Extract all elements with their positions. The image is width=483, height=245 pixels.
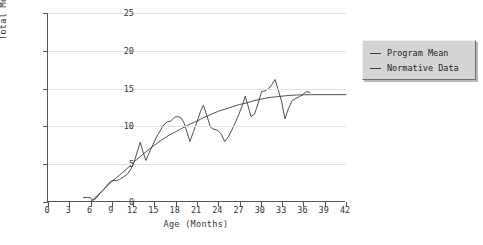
y-tick (43, 51, 48, 52)
y-tick (43, 13, 48, 14)
chart-legend: Program Mean Normative Data (362, 40, 476, 80)
legend-label: Normative Data (387, 64, 459, 73)
gridline (48, 51, 346, 52)
y-tick (43, 126, 48, 127)
plot-area (47, 13, 345, 202)
y-tick-label: 5 (112, 160, 134, 169)
gridline (48, 13, 346, 14)
x-tick-label: 42 (333, 206, 357, 215)
legend-item-program-mean: Program Mean (370, 46, 475, 61)
series-line (91, 95, 346, 202)
gridline (48, 164, 346, 165)
gridline (48, 89, 346, 90)
series-lines (48, 13, 346, 202)
legend-label: Program Mean (387, 49, 448, 58)
legend-line-icon (370, 68, 381, 69)
x-axis-title: Age (Months) (47, 219, 345, 229)
y-axis-title: Total Movement Graph (0, 0, 8, 40)
chart-figure: Total Movement Graph 0510152025 03691215… (0, 0, 483, 245)
gridline (48, 126, 346, 127)
legend-line-icon (370, 53, 381, 54)
y-tick-label: 20 (112, 47, 134, 56)
y-tick (43, 89, 48, 90)
y-tick (43, 164, 48, 165)
series-line (83, 80, 309, 201)
y-tick-label: 15 (112, 85, 134, 94)
y-tick-label: 25 (112, 9, 134, 18)
y-tick-label: 10 (112, 122, 134, 131)
legend-item-normative-data: Normative Data (370, 61, 475, 76)
